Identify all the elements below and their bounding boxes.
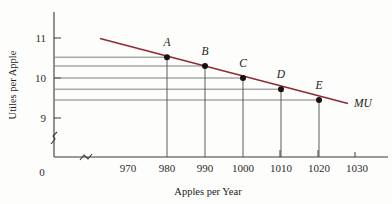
data-point-B	[202, 63, 208, 69]
x-tick-label-990: 990	[197, 162, 214, 174]
x-axis-break-mark	[80, 154, 92, 160]
y-tick-label-10: 10	[35, 72, 47, 84]
marginal-utility-chart: 11 10 9 970 980 990 1000 1010 1020 1030 …	[0, 0, 392, 204]
y-tick-label-11: 11	[35, 32, 46, 44]
data-point-A	[164, 54, 170, 60]
x-tick-marks	[280, 150, 355, 157]
point-droplines-group	[167, 57, 319, 157]
data-point-label-B: B	[201, 45, 208, 57]
mu-curve-line	[100, 39, 348, 104]
data-point-label-D: D	[276, 68, 286, 80]
data-point-C	[240, 75, 246, 81]
y-tick-label-9: 9	[41, 112, 47, 124]
chart-plot-area: 11 10 9 970 980 990 1000 1010 1020 1030 …	[0, 0, 392, 204]
x-tick-label-1000: 1000	[232, 162, 255, 174]
origin-label: 0	[39, 166, 45, 178]
y-axis-title: Utiles per Apple	[7, 50, 18, 119]
data-point-E	[316, 97, 322, 103]
data-point-label-E: E	[314, 79, 322, 91]
axes-group	[51, 12, 388, 160]
x-tick-label-970: 970	[120, 162, 137, 174]
data-point-D	[278, 86, 284, 92]
x-tick-label-1020: 1020	[308, 162, 331, 174]
x-axis-title: Apples per Year	[174, 186, 242, 197]
x-tick-label-1030: 1030	[346, 162, 369, 174]
data-point-label-A: A	[162, 36, 171, 48]
x-tick-label-980: 980	[159, 162, 176, 174]
mu-curve-label: MU	[353, 97, 373, 109]
data-point-label-C: C	[239, 57, 247, 69]
x-tick-label-1010: 1010	[270, 162, 293, 174]
